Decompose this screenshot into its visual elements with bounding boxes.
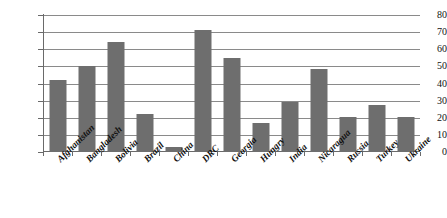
y-axis-tick-label: 60 bbox=[423, 44, 447, 54]
bar-chart: 80706050403020100 AfghanistanBangladeshB… bbox=[0, 0, 447, 218]
bar-slot bbox=[275, 15, 304, 152]
bar-slot bbox=[391, 15, 420, 152]
bar bbox=[194, 30, 211, 152]
y-axis-tick-label: 40 bbox=[423, 79, 447, 89]
bar-slot bbox=[362, 15, 391, 152]
bar-slot bbox=[217, 15, 246, 152]
bar-slot bbox=[130, 15, 159, 152]
bar-slot bbox=[43, 15, 72, 152]
x-axis-labels: AfghanistanBangladeshBoliviaBrazilChinaD… bbox=[43, 157, 420, 218]
y-axis-tick-label: 80 bbox=[423, 10, 447, 20]
y-axis-tick-label: 50 bbox=[423, 61, 447, 71]
x-axis-tick-mark bbox=[43, 152, 44, 156]
y-axis-tick-label: 0 bbox=[423, 147, 447, 157]
bar-series bbox=[43, 15, 420, 152]
bar bbox=[223, 58, 240, 152]
bar bbox=[49, 80, 66, 152]
bar-slot bbox=[188, 15, 217, 152]
bar bbox=[136, 114, 153, 152]
y-axis-tick-label: 70 bbox=[423, 27, 447, 37]
bar-slot bbox=[246, 15, 275, 152]
bar-slot bbox=[304, 15, 333, 152]
bar-slot bbox=[159, 15, 188, 152]
y-axis-tick-label: 30 bbox=[423, 96, 447, 106]
bar bbox=[310, 69, 327, 152]
y-axis-tick-label: 20 bbox=[423, 113, 447, 123]
